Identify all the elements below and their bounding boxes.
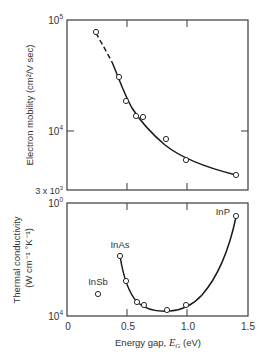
data-point-inas bbox=[117, 253, 122, 258]
data-point bbox=[233, 172, 238, 177]
mobility-curve-dashed bbox=[96, 33, 112, 62]
top-ytick-label-3e3: 3 x 103 bbox=[35, 185, 64, 196]
mobility-curve-solid bbox=[112, 62, 236, 175]
data-point bbox=[123, 98, 128, 103]
thermal-data-points bbox=[95, 213, 238, 312]
data-point bbox=[163, 136, 168, 141]
data-point bbox=[164, 307, 169, 312]
annotation-insb: InSb bbox=[88, 276, 108, 287]
top-plot-frame bbox=[67, 20, 248, 190]
annotation-inas: InAs bbox=[110, 239, 129, 250]
data-point bbox=[183, 302, 188, 307]
data-point bbox=[141, 302, 146, 307]
figure: 105 104 3 x 103 Electron mobility (cm²/V… bbox=[0, 0, 268, 361]
chart-svg: 105 104 3 x 103 Electron mobility (cm²/V… bbox=[0, 0, 268, 361]
bottom-y-axis-label-line2: (W cm⁻¹ °K⁻¹) bbox=[23, 228, 34, 288]
data-point bbox=[123, 278, 128, 283]
top-ytick-label-1e4: 104 bbox=[48, 124, 63, 137]
x-axis-label: Energy gap, EG (eV) bbox=[115, 337, 201, 350]
data-point bbox=[140, 114, 145, 119]
bottom-plot-frame bbox=[67, 203, 248, 316]
bottom-panel: 100 104 Thermal conductivity (W cm⁻¹ °K⁻… bbox=[11, 196, 248, 322]
x-axis: 0 0.5 1.0 1.5 Energy gap, EG (eV) bbox=[65, 321, 255, 350]
mobility-data-points bbox=[93, 29, 238, 177]
data-point bbox=[93, 29, 98, 34]
xtick-label-1.5: 1.5 bbox=[241, 321, 255, 332]
xtick-label-0.5: 0.5 bbox=[121, 321, 135, 332]
bottom-y-axis-label-line1: Thermal conductivity bbox=[11, 216, 22, 303]
xtick-label-0: 0 bbox=[65, 321, 71, 332]
data-point bbox=[134, 299, 139, 304]
data-point bbox=[116, 74, 121, 79]
top-ytick-label-1e5: 105 bbox=[48, 13, 63, 26]
data-point-inp bbox=[233, 213, 238, 218]
thermal-conductivity-curve bbox=[120, 217, 236, 311]
data-point bbox=[133, 113, 138, 118]
data-point bbox=[183, 157, 188, 162]
top-y-axis-label: Electron mobility (cm²/V sec) bbox=[24, 45, 35, 166]
bottom-ytick-label-bottom: 104 bbox=[48, 309, 63, 322]
data-point-insb bbox=[95, 291, 100, 296]
bottom-ytick-label-top: 100 bbox=[48, 196, 63, 209]
annotation-inp: InP bbox=[216, 206, 230, 217]
xtick-label-1.0: 1.0 bbox=[181, 321, 195, 332]
top-panel: 105 104 3 x 103 Electron mobility (cm²/V… bbox=[24, 13, 248, 196]
